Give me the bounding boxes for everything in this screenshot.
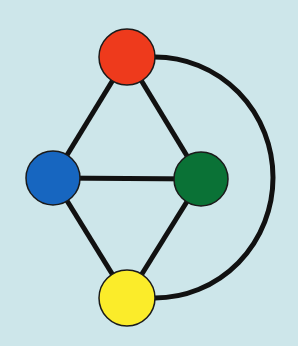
node-yellow [99,270,155,326]
node-green [174,152,228,206]
graph-diagram [0,0,298,346]
node-blue [26,151,80,205]
node-red [99,29,155,85]
